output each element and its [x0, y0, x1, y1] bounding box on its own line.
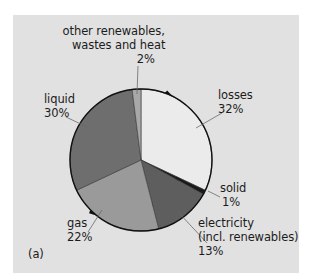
pie-slices	[70, 89, 212, 231]
label-other-line2: wastes and heat	[58, 38, 165, 52]
panel-label: (a)	[28, 247, 44, 261]
label-gas-name: gas	[67, 216, 92, 230]
label-liquid-value: 30%	[44, 106, 75, 120]
label-other-value: 2%	[58, 52, 165, 66]
label-gas-value: 22%	[67, 230, 92, 244]
label-other: other renewables, wastes and heat 2%	[58, 24, 165, 66]
label-electricity-name: electricity	[198, 216, 298, 230]
leader-solid	[208, 191, 220, 197]
label-liquid: liquid 30%	[44, 92, 75, 120]
label-solid-name: solid	[220, 181, 246, 195]
label-losses: losses 32%	[218, 88, 253, 116]
label-liquid-name: liquid	[44, 92, 75, 106]
label-losses-name: losses	[218, 88, 253, 102]
label-electricity-note: (incl. renewables)	[198, 230, 298, 244]
label-electricity-value: 13%	[198, 244, 298, 258]
label-losses-value: 32%	[218, 102, 253, 116]
label-electricity: electricity (incl. renewables) 13%	[198, 216, 298, 258]
label-solid: solid 1%	[220, 181, 246, 209]
label-gas: gas 22%	[67, 216, 92, 244]
label-solid-value: 1%	[220, 195, 246, 209]
label-other-line1: other renewables,	[58, 24, 165, 38]
